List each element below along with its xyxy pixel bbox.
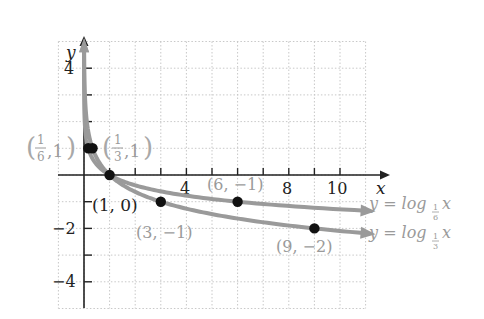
svg-text:(: (	[102, 132, 112, 162]
svg-text:): )	[66, 132, 76, 162]
data-point	[156, 197, 166, 207]
svg-text:6: 6	[37, 150, 45, 164]
svg-text:): )	[143, 132, 153, 162]
label-one-zero: (1, 0)	[92, 195, 138, 215]
svg-text:y = log: y = log	[368, 194, 427, 213]
svg-text:x: x	[442, 194, 451, 213]
log-graph: x y 4 −2 −4 4 8 10 ( 1 6 ,1 ) ( 1 3 ,1 )…	[0, 0, 484, 319]
svg-text:1: 1	[433, 203, 438, 212]
svg-text:y = log: y = log	[368, 223, 427, 242]
legend-log-one-sixth: y = log 1 6 x	[368, 194, 451, 222]
graph-canvas: x y 4 −2 −4 4 8 10 ( 1 6 ,1 ) ( 1 3 ,1 )…	[0, 0, 484, 319]
svg-text:1: 1	[433, 232, 438, 241]
label-one-third-one: ( 1 3 ,1 )	[102, 132, 153, 164]
x-tick-label-8: 8	[282, 179, 292, 198]
data-point	[104, 170, 114, 180]
svg-text:6: 6	[433, 213, 438, 222]
svg-text:3: 3	[433, 242, 438, 251]
legend-log-one-third: y = log 1 3 x	[368, 223, 451, 251]
label-one-sixth-one: ( 1 6 ,1 )	[26, 132, 76, 164]
svg-text:,1: ,1	[124, 141, 140, 161]
svg-text:,1: ,1	[47, 141, 63, 161]
svg-text:3: 3	[114, 150, 122, 164]
y-tick-label-4: 4	[64, 59, 74, 78]
label-nine-neg-two: (9, −2)	[276, 237, 332, 256]
data-point	[232, 197, 242, 207]
svg-text:1: 1	[37, 133, 45, 147]
svg-text:(: (	[26, 132, 36, 162]
data-point	[309, 223, 319, 233]
label-three-neg-one: (3, −1)	[136, 223, 192, 242]
svg-text:x: x	[442, 223, 451, 242]
data-point	[87, 143, 97, 153]
y-tick-label-neg2: −2	[52, 219, 76, 238]
svg-text:1: 1	[114, 133, 122, 147]
y-tick-label-neg4: −4	[52, 272, 76, 291]
label-six-neg-one: (6, −1)	[207, 175, 263, 194]
x-tick-label-10: 10	[327, 179, 347, 198]
